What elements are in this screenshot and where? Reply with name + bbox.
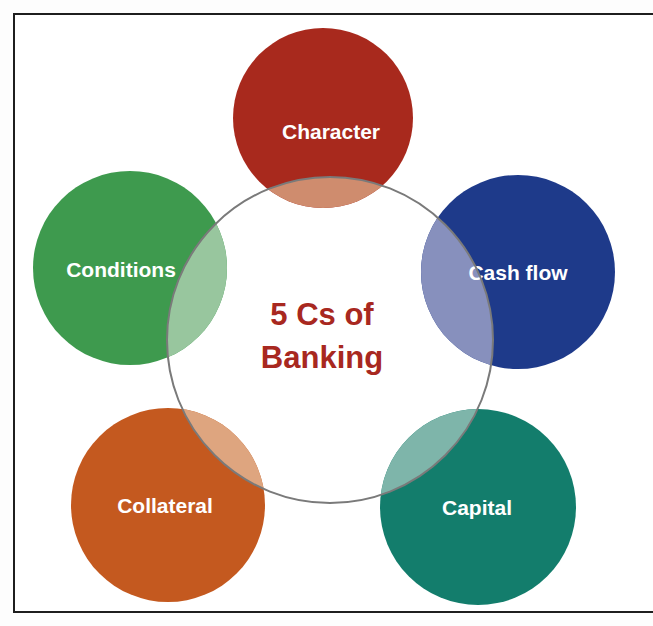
label-capital: Capital — [442, 496, 512, 519]
circle-character: Character — [233, 28, 413, 208]
circle-cash-flow: Cash flow — [421, 175, 615, 369]
label-collateral: Collateral — [117, 494, 213, 517]
circle-collateral: Collateral — [71, 408, 265, 602]
title-line-2: Banking — [261, 340, 383, 375]
circle-conditions: Conditions — [33, 171, 227, 365]
label-conditions: Conditions — [66, 258, 176, 281]
label-character: Character — [282, 120, 380, 143]
circle-capital: Capital — [380, 409, 576, 605]
title-line-1: 5 Cs of — [270, 297, 374, 332]
label-cash-flow: Cash flow — [468, 261, 568, 284]
